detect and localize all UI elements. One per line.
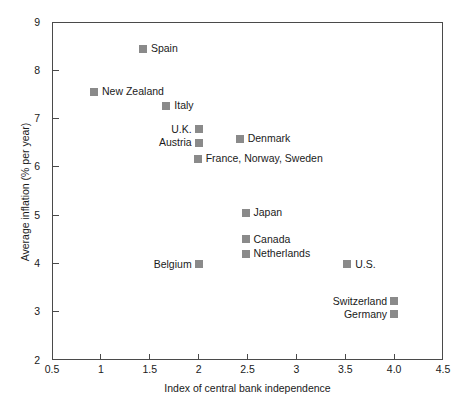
y-axis-tick <box>53 263 59 264</box>
data-point-marker <box>195 139 203 147</box>
x-axis-tick-label: 3.5 <box>325 364 365 375</box>
data-point-marker <box>236 135 244 143</box>
data-point-label: Canada <box>254 234 291 245</box>
x-axis-tick-label: 4.5 <box>423 364 457 375</box>
x-axis-tick-label: 0.5 <box>32 364 72 375</box>
x-axis-tick-label: 1 <box>81 364 121 375</box>
x-axis-tick-label: 1.5 <box>130 364 170 375</box>
y-axis-title: Average inflation (% per year) <box>19 72 31 312</box>
data-point-label: Netherlands <box>254 248 311 259</box>
plot-border-right <box>442 22 443 360</box>
data-point-marker <box>390 297 398 305</box>
y-axis-tick <box>53 70 59 71</box>
data-point-label: Italy <box>174 100 193 111</box>
x-axis-tick <box>394 354 395 360</box>
data-point-marker <box>195 125 203 133</box>
data-point-marker <box>162 102 170 110</box>
data-point-label: France, Norway, Sweden <box>206 153 323 164</box>
data-point-marker <box>139 45 147 53</box>
data-point-marker <box>343 260 351 268</box>
scatter-chart: 23456789 0.511.522.533.54.04.5 SpainNew … <box>0 0 457 413</box>
x-axis-tick <box>198 354 199 360</box>
data-point-marker <box>242 250 250 258</box>
y-axis-tick <box>53 311 59 312</box>
x-axis-tick <box>100 354 101 360</box>
x-axis-tick-label: 2 <box>179 364 219 375</box>
data-point-label: U.S. <box>355 259 375 270</box>
data-point-label: Germany <box>344 309 387 320</box>
data-point-marker <box>390 310 398 318</box>
x-axis-tick <box>345 354 346 360</box>
y-axis-tick <box>53 118 59 119</box>
data-point-label: Spain <box>151 43 178 54</box>
x-axis-tick-label: 4.0 <box>374 364 414 375</box>
data-point-label: Belgium <box>154 259 192 270</box>
data-point-marker <box>194 155 202 163</box>
x-axis-title: Index of central bank independence <box>52 382 443 394</box>
data-point-marker <box>242 209 250 217</box>
data-point-label: Switzerland <box>333 296 387 307</box>
data-point-label: U.K. <box>171 124 191 135</box>
data-point-marker <box>242 235 250 243</box>
y-axis-tick-label: 9 <box>0 17 40 28</box>
y-axis-tick <box>53 215 59 216</box>
x-axis-tick-label: 3 <box>276 364 316 375</box>
data-point-label: Japan <box>254 207 283 218</box>
x-axis-tick-label: 2.5 <box>228 364 268 375</box>
x-axis-tick <box>149 354 150 360</box>
data-point-label: Denmark <box>248 133 291 144</box>
data-point-marker <box>195 260 203 268</box>
plot-border-top <box>52 22 443 23</box>
data-point-label: New Zealand <box>102 86 164 97</box>
y-axis-tick <box>53 166 59 167</box>
data-point-label: Austria <box>159 137 192 148</box>
x-axis-tick <box>247 354 248 360</box>
data-point-marker <box>90 88 98 96</box>
x-axis-tick <box>296 354 297 360</box>
